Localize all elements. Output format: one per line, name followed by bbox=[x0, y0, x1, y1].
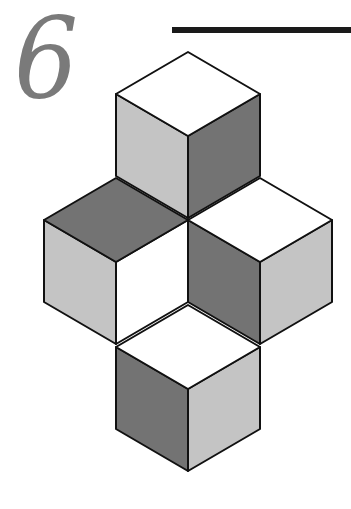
isometric-cubes-illustration bbox=[0, 0, 351, 509]
chapter-opener-figure: 6 bbox=[0, 0, 351, 509]
